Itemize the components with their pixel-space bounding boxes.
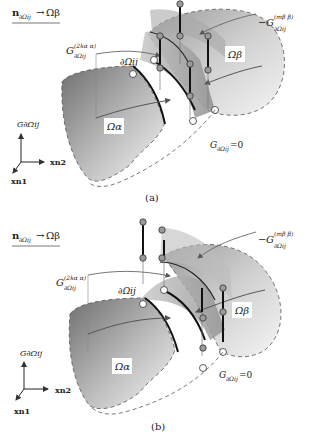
boundary-label: ∂Ωij bbox=[118, 286, 136, 296]
node bbox=[200, 345, 206, 351]
node bbox=[205, 67, 211, 73]
open-node bbox=[161, 287, 168, 294]
svg-text:∂Ωij: ∂Ωij bbox=[74, 52, 86, 60]
xn1-axis-label: xn1 bbox=[14, 406, 30, 416]
svg-text:∂Ωij: ∂Ωij bbox=[19, 13, 31, 21]
boundary-label: ∂Ωij bbox=[120, 57, 138, 67]
svg-text:=0: =0 bbox=[239, 370, 253, 380]
xn2-axis-label: xn2 bbox=[50, 157, 66, 167]
svg-text:G: G bbox=[266, 17, 274, 28]
svg-text:∂Ωij: ∂Ωij bbox=[64, 284, 76, 292]
svg-text:→: → bbox=[36, 7, 45, 18]
svg-text:∂Ωij: ∂Ωij bbox=[226, 375, 238, 383]
svg-text:(2kα α): (2kα α) bbox=[64, 274, 87, 281]
zero-level-label: G ∂Ωij =0 bbox=[219, 370, 253, 383]
normal-direction-label: n ∂Ωij → Ωβ bbox=[12, 7, 60, 23]
svg-text:∂Ωij: ∂Ωij bbox=[19, 236, 31, 244]
g-alpha-curve bbox=[88, 271, 170, 276]
node bbox=[220, 309, 226, 315]
svg-text:G: G bbox=[56, 277, 64, 288]
panel-a: n ∂Ωij → Ωβ bbox=[11, 1, 294, 203]
node bbox=[140, 219, 146, 225]
omega-beta-label: Ωβ bbox=[234, 305, 249, 316]
g-axis-label: G∂Ωij bbox=[17, 120, 40, 129]
node bbox=[159, 255, 165, 261]
node bbox=[220, 285, 226, 291]
svg-text:G: G bbox=[266, 234, 274, 245]
node bbox=[159, 227, 165, 233]
xn1-axis-label: xn1 bbox=[11, 176, 27, 186]
panel-b: n ∂Ωij → Ωβ bbox=[12, 219, 294, 432]
zero-level-label: G ∂Ωij =0 bbox=[210, 140, 244, 153]
node bbox=[187, 61, 193, 67]
xn2-axis-label: xn2 bbox=[55, 385, 71, 395]
caption-b: (b) bbox=[151, 421, 165, 432]
g-alpha-label: G (2kα α) ∂Ωij bbox=[66, 42, 97, 60]
node bbox=[157, 65, 163, 71]
svg-text:Ωβ: Ωβ bbox=[46, 7, 60, 18]
open-node bbox=[200, 365, 207, 372]
node bbox=[205, 33, 211, 39]
omega-alpha-label: Ωα bbox=[114, 361, 130, 372]
svg-text:∂Ωij: ∂Ωij bbox=[217, 145, 229, 153]
g-axis-label: G∂Ωij bbox=[20, 349, 43, 358]
xn1-axis-arrow bbox=[13, 162, 21, 173]
svg-text:∂Ωij: ∂Ωij bbox=[274, 25, 286, 33]
normal-direction-label: n ∂Ωij → Ωβ bbox=[12, 230, 60, 246]
node bbox=[187, 93, 193, 99]
svg-text:∂Ωij: ∂Ωij bbox=[274, 242, 286, 250]
svg-text:(2kα α): (2kα α) bbox=[74, 42, 97, 49]
caption-a: (a) bbox=[145, 192, 159, 203]
figure-canvas: n ∂Ωij → Ωβ bbox=[0, 0, 309, 444]
omega-beta-label: Ωβ bbox=[227, 49, 242, 60]
svg-text:G: G bbox=[66, 45, 74, 56]
node bbox=[177, 1, 183, 7]
node bbox=[200, 315, 206, 321]
node bbox=[157, 33, 163, 39]
open-node bbox=[151, 57, 158, 64]
svg-text:(mβ β): (mβ β) bbox=[274, 13, 294, 21]
open-node bbox=[190, 118, 197, 125]
open-node bbox=[140, 301, 147, 308]
omega-alpha-surface bbox=[69, 298, 175, 409]
node bbox=[140, 255, 146, 261]
g-beta-label: − G (mβ β) ∂Ωij bbox=[258, 230, 294, 250]
omega-alpha-label: Ωα bbox=[106, 121, 122, 132]
open-node bbox=[130, 71, 137, 78]
xn1-axis-arrow bbox=[16, 389, 24, 400]
svg-text:→: → bbox=[36, 230, 45, 241]
g-alpha-label: G (2kα α) ∂Ωij bbox=[56, 274, 87, 292]
coordinate-axes: G∂Ωij xn2 xn1 bbox=[11, 120, 66, 186]
svg-text:Ωβ: Ωβ bbox=[46, 230, 60, 241]
coordinate-axes: G∂Ωij xn2 xn1 bbox=[14, 349, 71, 416]
node bbox=[177, 33, 183, 39]
svg-text:(mβ β): (mβ β) bbox=[274, 230, 294, 238]
svg-text:=0: =0 bbox=[230, 140, 244, 150]
